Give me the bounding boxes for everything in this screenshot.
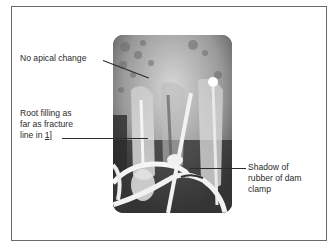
shadow-line-1: Shadow of xyxy=(248,162,302,173)
root-filling-line-2: far as fracture xyxy=(20,119,73,130)
label-shadow-rubber-dam-clamp: Shadow of rubber of dam clamp xyxy=(248,162,302,195)
root-filling-line-3-text: line in xyxy=(20,130,45,140)
shadow-line-3: clamp xyxy=(248,184,302,195)
label-no-apical-change: No apical change xyxy=(20,53,86,64)
root-filling-line-1: Root filling as xyxy=(20,108,73,119)
tooth-notation: 1] xyxy=(45,130,52,140)
leader-line-shadow xyxy=(190,168,246,169)
leader-line-root-filling xyxy=(62,138,148,139)
root-filling-line-3: line in 1] xyxy=(20,130,73,141)
label-root-filling: Root filling as far as fracture line in … xyxy=(20,108,73,141)
shadow-line-2: rubber of dam xyxy=(248,173,302,184)
dental-radiograph-image xyxy=(113,35,232,213)
